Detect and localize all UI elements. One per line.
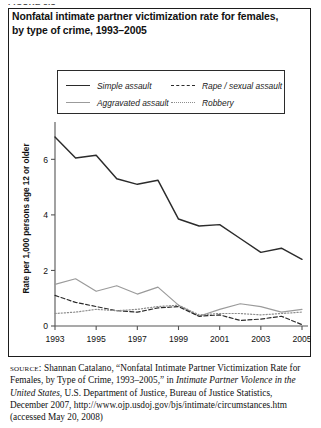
x-axis-tick-label: 1995 <box>87 334 106 344</box>
x-axis-tick-label: 1997 <box>128 334 147 344</box>
page-title: Nonfatal intimate partner victimization … <box>12 10 292 38</box>
legend-row: Aggravated assault Robbery <box>66 94 276 111</box>
chart-legend: Simple assault Rape / sexual assault Agg… <box>57 70 285 114</box>
legend-row: Simple assault Rape / sexual assault <box>66 77 276 94</box>
series-line-simple-assault <box>55 137 302 259</box>
x-axis-tick-label: 1993 <box>45 334 64 344</box>
x-axis-tick-label: 2003 <box>251 334 270 344</box>
x-axis-tick-label: 2001 <box>210 334 229 344</box>
y-axis-tick-label: 0 <box>43 321 48 331</box>
line-swatch-dashed-icon <box>171 81 195 90</box>
legend-item-robbery: Robbery <box>171 98 276 108</box>
line-swatch-solid-dark-icon <box>66 81 90 90</box>
legend-item-aggravated-assault: Aggravated assault <box>66 98 171 108</box>
legend-item-rape-sexual-assault: Rape / sexual assault <box>171 81 276 91</box>
line-chart-svg: 02461993199519971999200120032005 <box>8 118 311 350</box>
y-axis-label: Rate per 1,000 persons age 12 or older <box>22 139 31 299</box>
y-axis-tick-label: 4 <box>43 210 48 220</box>
series-line-aggravated-assault <box>55 279 302 317</box>
x-axis-tick-label: 2005 <box>292 334 311 344</box>
line-swatch-dotted-icon <box>171 98 195 107</box>
x-axis-tick-label: 1999 <box>169 334 188 344</box>
y-axis-tick-label: 2 <box>43 266 48 276</box>
legend-label: Simple assault <box>97 81 151 91</box>
legend-label: Robbery <box>202 98 234 108</box>
legend-label: Rape / sexual assault <box>202 81 282 91</box>
source-citation: source: Shannan Catalano, “Nonfatal Inti… <box>10 362 310 423</box>
figure-label: FIGURE 5.1 <box>8 0 56 7</box>
legend-item-simple-assault: Simple assault <box>66 81 171 91</box>
legend-label: Aggravated assault <box>97 98 169 108</box>
source-label: source: <box>10 362 42 373</box>
line-swatch-solid-gray-icon <box>66 98 90 107</box>
chart-plot-area: Rate per 1,000 persons age 12 or older 0… <box>8 118 311 350</box>
y-axis-tick-label: 6 <box>43 155 48 165</box>
